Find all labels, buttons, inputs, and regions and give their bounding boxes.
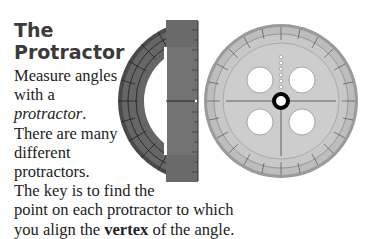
text-fragment: you align the <box>14 220 104 239</box>
text-line: point on each protractor to which <box>14 200 244 219</box>
protractor-term: protractor <box>14 104 82 123</box>
text-fragment: . <box>82 104 86 123</box>
vertex-term: vertex <box>104 220 148 239</box>
text-fragment: of the angle. <box>148 220 234 239</box>
full-protractor-image <box>202 22 360 180</box>
title-line-2: Protractor <box>14 41 124 63</box>
half-protractor-image <box>110 20 202 182</box>
title-line-1: The <box>14 19 124 41</box>
page-title: The Protractor <box>14 19 124 63</box>
text-line: The key is to find the <box>14 181 244 200</box>
text-line: you align the vertex of the angle. <box>14 220 244 239</box>
